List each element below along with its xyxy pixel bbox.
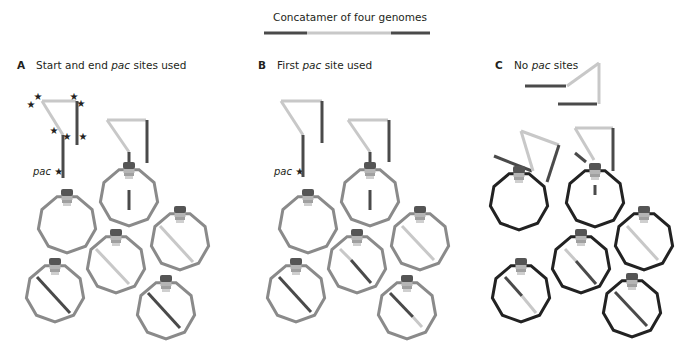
dna-strand [348,120,370,152]
pac-star-icon: ★ [77,98,86,109]
pac-star-icon: ★ [27,99,36,110]
dna-strand [281,101,303,135]
capsid [328,229,385,293]
capsid [378,275,435,339]
dna-strand [107,120,129,152]
dna-strand [521,131,533,171]
figure-canvas: ★★★★★★★ [0,0,687,350]
dna-strand [521,131,559,145]
panels-group: ★★★★★★★ [26,63,672,339]
pac-star-icon: ★ [63,131,72,142]
dna-strand [567,63,599,86]
dna-strand [547,145,559,182]
capsid [391,206,448,270]
capsid [137,275,194,339]
capsid [26,258,83,322]
panel-b [267,101,448,339]
capsid [492,258,549,322]
capsid [279,189,336,253]
pac-star-icon: ★ [50,125,59,136]
panel-c [490,63,672,337]
capsid [552,229,609,293]
capsid [151,206,208,270]
capsid [490,166,547,230]
capsid [38,189,95,253]
capsid [615,206,672,270]
pac-star-icon: ★ [79,131,88,142]
capsid [267,258,324,322]
capsid [603,273,660,337]
dna-strand [575,153,586,162]
panel-a: ★★★★★★★ [26,91,208,339]
capsid [341,162,398,226]
capsid [566,163,623,227]
capsid [100,162,157,226]
capsid [87,229,144,293]
